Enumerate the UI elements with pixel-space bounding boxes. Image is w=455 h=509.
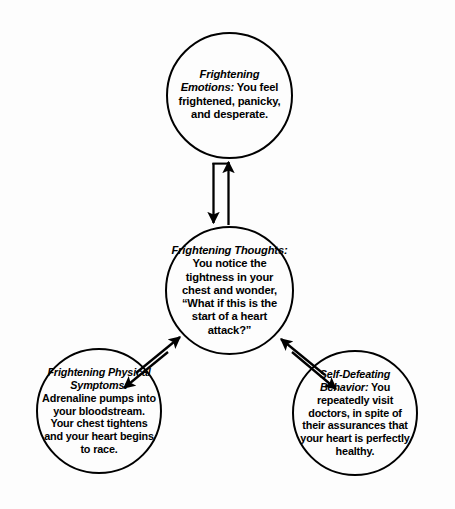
node-frightening-thoughts: Frightening Thoughts: You notice the tig… <box>165 226 294 355</box>
node-behavior-text: Self-Defeating Behavior: You repeatedly … <box>294 368 416 457</box>
node-self-defeating-behavior: Self-Defeating Behavior: You repeatedly … <box>292 350 418 476</box>
node-physical-body: Adrenaline pumps into your bloodstream. … <box>42 392 156 455</box>
node-thoughts-label: Frightening Thoughts: <box>171 244 287 256</box>
node-thoughts-body: You notice the tightness in your chest a… <box>182 257 277 335</box>
node-physical-text: Frightening Physical Symptoms: Adrenalin… <box>38 366 160 455</box>
node-emotions-text: Frightening Emotions: You feel frightene… <box>168 68 291 121</box>
panic-cycle-diagram: Frightening Emotions: You feel frightene… <box>0 0 455 509</box>
node-thoughts-text: Frightening Thoughts: You notice the tig… <box>167 244 292 337</box>
node-frightening-physical-symptoms: Frightening Physical Symptoms: Adrenalin… <box>36 348 162 474</box>
connector-emotions-thoughts <box>212 162 229 225</box>
node-frightening-emotions: Frightening Emotions: You feel frightene… <box>166 32 293 159</box>
node-physical-label: Frightening Physical Symptoms: <box>47 366 150 391</box>
